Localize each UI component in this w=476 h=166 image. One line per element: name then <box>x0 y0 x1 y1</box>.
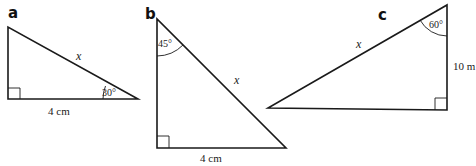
triangle-a-shape <box>8 27 138 99</box>
triangle-b: b 45° x 4 cm <box>145 5 286 164</box>
triangle-a-hypotenuse-label: x <box>75 49 82 63</box>
triangle-b-angle-label: 45° <box>158 38 172 49</box>
right-angle-marker-icon <box>8 88 20 99</box>
triangle-c: c 60° x 10 m <box>268 5 476 110</box>
triangle-a: a 30° x 4 cm <box>8 4 138 117</box>
triangle-b-shape <box>157 19 286 148</box>
triangle-c-angle-label: 60° <box>429 19 443 30</box>
triangle-a-base-label: 4 cm <box>48 105 70 117</box>
right-angle-marker-icon <box>157 136 169 148</box>
triangle-b-label: b <box>145 5 156 23</box>
triangle-c-hypotenuse-label: x <box>355 37 362 51</box>
triangle-c-label: c <box>378 6 387 24</box>
triangle-a-angle-label: 30° <box>102 87 116 98</box>
triangle-b-base-label: 4 cm <box>200 152 222 164</box>
right-angle-marker-icon <box>435 98 447 110</box>
triangle-a-label: a <box>8 4 18 22</box>
triangle-c-side-label: 10 m <box>453 60 476 72</box>
triangles-diagram: a 30° x 4 cm b 45° x 4 cm c 60° x 10 m <box>0 0 476 166</box>
triangle-b-hypotenuse-label: x <box>233 73 240 87</box>
